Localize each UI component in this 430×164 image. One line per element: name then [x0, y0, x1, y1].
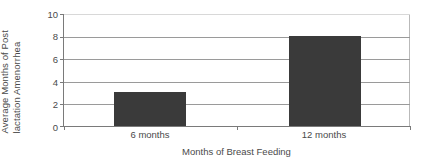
bar-chart: Average Months of Post lactation Amenorr…: [0, 0, 430, 164]
plot-area: [63, 14, 410, 127]
y-axis-title: Average Months of Post lactation Amenorr…: [0, 0, 40, 140]
y-axis-title-line-2: lactation Amenorrhea: [12, 1, 22, 133]
y-axis-title-line-1: Average Months of Post: [0, 1, 9, 133]
y-tickmark-10: [60, 14, 64, 15]
y-tick-label-8: 8: [36, 32, 58, 42]
bar-12-months: [289, 36, 361, 126]
y-axis-tick-labels: 10 8 6 4 2 0: [36, 0, 58, 164]
y-tick-label-10: 10: [36, 10, 58, 20]
gridline-10: [64, 14, 410, 15]
x-axis-title: Months of Breast Feeding: [63, 147, 410, 157]
x-tick-label-6-months: 6 months: [63, 130, 237, 140]
y-tick-label-2: 2: [36, 100, 58, 110]
y-tickmark-4: [60, 82, 64, 83]
y-tickmark-2: [60, 104, 64, 105]
y-tick-label-0: 0: [36, 123, 58, 133]
y-tickmark-8: [60, 37, 64, 38]
y-tick-label-4: 4: [36, 78, 58, 88]
plot-right-border: [409, 14, 410, 126]
bar-6-months: [114, 92, 186, 126]
x-tick-label-12-months: 12 months: [237, 130, 411, 140]
y-tickmark-6: [60, 59, 64, 60]
y-tick-label-6: 6: [36, 55, 58, 65]
